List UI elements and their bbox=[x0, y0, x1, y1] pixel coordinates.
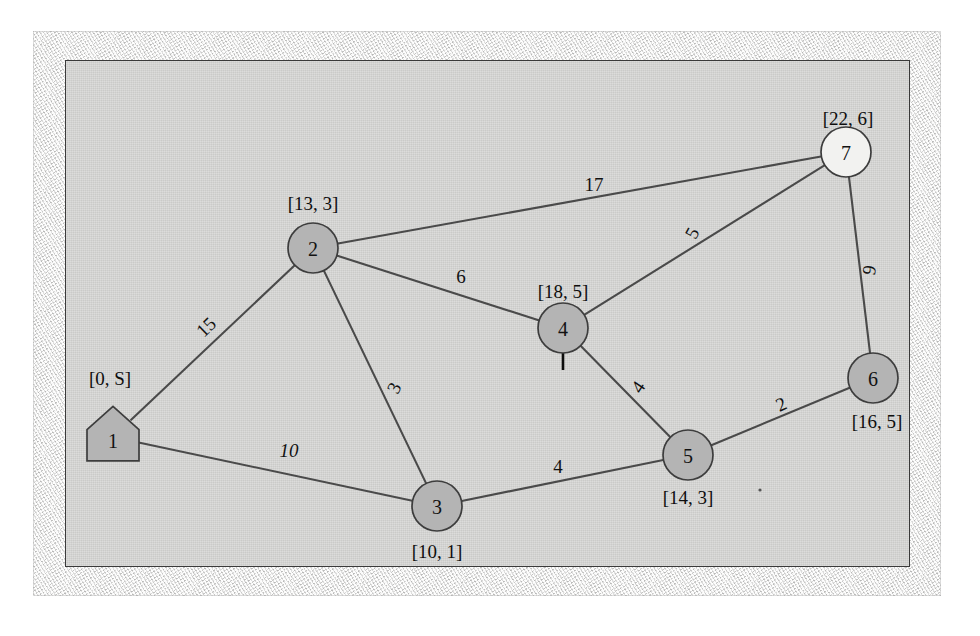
edge-2-7 bbox=[337, 156, 823, 243]
edge-weight-1-3: 10 bbox=[280, 440, 300, 461]
graph-node-label-3: 3 bbox=[432, 496, 442, 518]
figure-page: 1510361759442 1234567 [0, S][13, 3][10, … bbox=[0, 0, 980, 636]
node-annotation-6: [16, 5] bbox=[852, 411, 903, 432]
graph-node-label-2: 2 bbox=[308, 238, 318, 260]
node-annotation-5: [14, 3] bbox=[663, 487, 714, 508]
stray-ink-mark bbox=[758, 488, 761, 491]
edge-weights-layer: 1510361759442 bbox=[192, 174, 880, 477]
edge-2-4 bbox=[336, 255, 540, 320]
edge-weight-7-6: 9 bbox=[858, 264, 880, 277]
node-annotation-7: [22, 6] bbox=[823, 108, 874, 129]
graph-node-label-5: 5 bbox=[683, 445, 693, 467]
edge-weight-5-6: 2 bbox=[772, 392, 789, 415]
edge-1-2 bbox=[131, 264, 295, 419]
node-annotation-4: [18, 5] bbox=[538, 281, 589, 302]
edge-1-3 bbox=[137, 442, 413, 501]
graph-node-label-7: 7 bbox=[841, 142, 851, 164]
edge-weight-2-3: 3 bbox=[382, 379, 405, 397]
graph-node-label-6: 6 bbox=[868, 368, 878, 390]
edge-weight-4-7: 5 bbox=[680, 224, 703, 242]
edge-weight-3-5: 4 bbox=[553, 456, 563, 477]
edge-4-7 bbox=[583, 165, 825, 316]
edge-weight-2-7: 17 bbox=[585, 174, 604, 195]
graph-canvas: 1510361759442 1234567 [0, S][13, 3][10, … bbox=[0, 0, 980, 636]
node-annotation-2: [13, 3] bbox=[288, 193, 339, 214]
node-annotation-3: [10, 1] bbox=[412, 541, 463, 562]
edge-4-5 bbox=[580, 345, 671, 438]
edge-2-3 bbox=[323, 270, 426, 485]
edge-weight-2-4: 6 bbox=[456, 266, 466, 287]
node-annotation-1: [0, S] bbox=[89, 368, 131, 389]
edges-layer bbox=[131, 156, 870, 501]
graph-node-label-4: 4 bbox=[558, 318, 568, 340]
edge-weight-4-5: 4 bbox=[627, 377, 650, 397]
edge-weight-1-2: 15 bbox=[192, 313, 220, 341]
graph-node-label-1: 1 bbox=[108, 430, 118, 452]
